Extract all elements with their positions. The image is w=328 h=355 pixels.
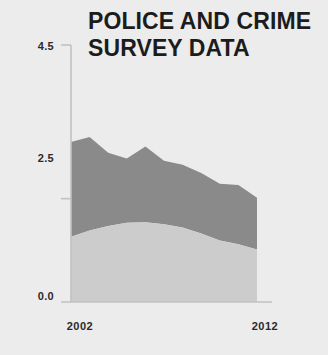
x-tick-label-2012: 2012 — [235, 320, 295, 332]
y-tick-label-2-5: 2.5 — [10, 152, 54, 164]
y-tick-label-0-0: 0.0 — [10, 290, 54, 302]
chart-container: POLICE AND CRIME SURVEY DATA 4.5 2.5 0.0… — [0, 0, 328, 355]
y-axis-ticks — [61, 45, 71, 199]
x-tick-label-2002: 2002 — [50, 320, 110, 332]
y-tick-label-4-5: 4.5 — [10, 40, 54, 52]
plot-areas — [71, 137, 257, 302]
